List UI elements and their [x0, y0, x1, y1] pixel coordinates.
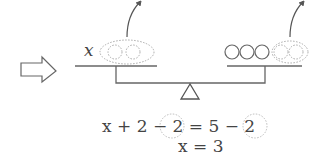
balance-diagram: [0, 0, 317, 165]
equation-line-2: x = 3: [178, 136, 223, 156]
fulcrum: [181, 84, 199, 99]
remove-arrow-right: [290, 2, 303, 37]
hollow-arrow-icon: [21, 57, 56, 82]
equation-line-1: x + 2 − 2 = 5 − 2: [102, 116, 255, 136]
balance-beam: [116, 66, 265, 83]
remove-arrow-left: [127, 2, 140, 37]
left-pan-label: x: [84, 40, 94, 60]
